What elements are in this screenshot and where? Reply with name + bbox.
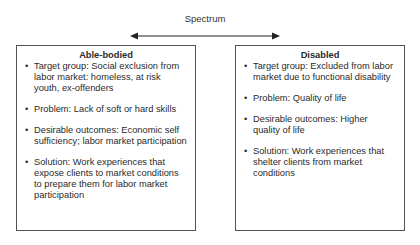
list-item: •Problem: Lack of soft or hard skills bbox=[25, 104, 187, 115]
item-text: Desirable outcomes: Higher quality of li… bbox=[253, 114, 368, 135]
list-item: •Solution: Work experiences that shelter… bbox=[244, 146, 396, 179]
bullet-icon: • bbox=[244, 114, 247, 125]
bullet-icon: • bbox=[25, 61, 28, 72]
list-item: •Target group: Social exclusion from lab… bbox=[25, 61, 187, 94]
disabled-box: Disabled •Target group: Excluded from la… bbox=[235, 45, 405, 231]
bullet-icon: • bbox=[25, 125, 28, 136]
disabled-list: •Target group: Excluded from labor marke… bbox=[244, 61, 396, 179]
bullet-icon: • bbox=[25, 157, 28, 168]
bullet-icon: • bbox=[25, 104, 28, 115]
list-item: •Desirable outcomes: Higher quality of l… bbox=[244, 114, 396, 136]
item-text: Desirable outcomes: Economic self suffic… bbox=[34, 125, 187, 146]
bullet-icon: • bbox=[244, 61, 247, 72]
able-bodied-list: •Target group: Social exclusion from lab… bbox=[25, 61, 187, 201]
bullet-icon: • bbox=[244, 146, 247, 157]
list-item: •Desirable outcomes: Economic self suffi… bbox=[25, 125, 187, 147]
able-bodied-box: Able-bodied •Target group: Social exclus… bbox=[16, 45, 196, 231]
item-text: Problem: Lack of soft or hard skills bbox=[34, 104, 176, 114]
item-text: Solution: Work experiences that shelter … bbox=[253, 146, 384, 178]
list-item: •Solution: Work experiences that expose … bbox=[25, 157, 187, 201]
spectrum-label: Spectrum bbox=[0, 13, 410, 24]
list-item: •Target group: Excluded from labor marke… bbox=[244, 61, 396, 83]
item-text: Problem: Quality of life bbox=[253, 93, 347, 103]
double-headed-arrow-icon bbox=[130, 31, 280, 41]
item-text: Solution: Work experiences that expose c… bbox=[34, 157, 179, 200]
item-text: Target group: Excluded from labor market… bbox=[253, 61, 393, 82]
disabled-title: Disabled bbox=[244, 50, 396, 61]
list-item: •Problem: Quality of life bbox=[244, 93, 396, 104]
able-bodied-title: Able-bodied bbox=[25, 50, 187, 61]
item-text: Target group: Social exclusion from labo… bbox=[34, 61, 179, 93]
bullet-icon: • bbox=[244, 93, 247, 104]
